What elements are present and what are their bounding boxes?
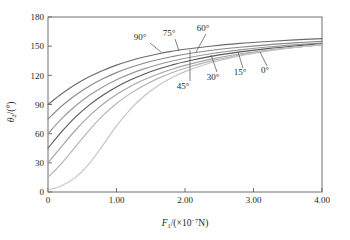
x-tick-label: 1.00 <box>109 195 125 205</box>
y-tick-label: 180 <box>31 12 45 22</box>
y-tick-label: 120 <box>31 71 45 81</box>
y-tick-label: 0 <box>40 187 45 197</box>
series-label-90deg: 90° <box>134 32 147 42</box>
series-label-45deg: 45° <box>177 81 190 91</box>
series-label-0deg: 0° <box>261 65 270 75</box>
series-label-75deg: 75° <box>163 28 176 38</box>
y-tick-label: 60 <box>35 129 45 139</box>
chart-figure: 01.002.003.004.00 0306090120150180 90°75… <box>0 0 350 240</box>
svg-text:θ2/(°): θ2/(°) <box>6 102 17 123</box>
theta2-vs-force-line-chart: 01.002.003.004.00 0306090120150180 90°75… <box>0 0 350 240</box>
x-tick-label: 3.00 <box>246 195 262 205</box>
x-tick-label: 0 <box>46 195 51 205</box>
series-label-30deg: 30° <box>207 72 220 82</box>
y-tick-label: 30 <box>35 158 45 168</box>
x-tick-label: 2.00 <box>177 195 193 205</box>
x-tick-label: 4.00 <box>314 195 330 205</box>
y-axis-title: θ2/(°) <box>6 102 17 123</box>
y-tick-label: 150 <box>31 41 45 51</box>
series-label-15deg: 15° <box>234 67 247 77</box>
y-tick-label: 90 <box>35 100 45 110</box>
series-label-60deg: 60° <box>197 23 210 33</box>
